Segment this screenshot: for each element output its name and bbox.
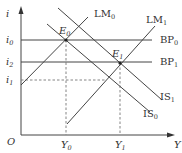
curves: [21, 8, 162, 124]
e1-point: [118, 61, 121, 64]
lm0-label: LM0: [94, 8, 115, 21]
lm1-label: LM1: [146, 14, 167, 27]
e1-label: E1: [111, 48, 123, 61]
i1-label: i1: [6, 74, 13, 87]
y-axis-label: i: [6, 8, 9, 19]
y-axis-arrow-icon: [19, 6, 24, 14]
is-lm-bp-diagram: i Y O i0 i2 i1 Y0 Y1 LM0 LM1 BP0 BP1 IS1…: [0, 0, 182, 153]
e0-point: [64, 38, 67, 41]
origin-label: O: [7, 136, 15, 147]
is1-label: IS1: [160, 91, 175, 104]
is0-label: IS0: [143, 108, 158, 121]
x-axis-arrow-icon: [167, 133, 175, 138]
i0-label: i0: [6, 34, 13, 47]
bp1-label: BP1: [160, 56, 178, 69]
x-axis-label: Y: [174, 139, 182, 150]
bp0-label: BP0: [160, 34, 178, 47]
e0-label: E0: [58, 25, 70, 38]
lm1-line: [67, 26, 155, 124]
is0-line: [47, 24, 150, 112]
i2-label: i2: [6, 56, 13, 69]
y1-label: Y1: [115, 139, 126, 152]
y0-label: Y0: [61, 139, 72, 152]
